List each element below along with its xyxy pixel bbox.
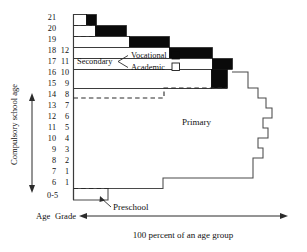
age-tick-15: 6 xyxy=(52,178,56,187)
education-age-grade-figure: 21 20 19 18 17 16 15 14 13 12 11 10 9 8 … xyxy=(0,0,307,252)
age-tick-3: 18 xyxy=(48,46,56,55)
grade-tick-3: 12 xyxy=(61,46,69,55)
academic-block-age21 xyxy=(74,15,87,26)
grade-tick-9: 6 xyxy=(65,112,69,121)
age-tick-10: 11 xyxy=(48,123,56,132)
legend-item-1-swatch-open-square-icon xyxy=(172,63,180,71)
y-axis-title: Compulsory school age xyxy=(9,84,19,165)
preschool-label: Preschool xyxy=(113,202,149,212)
legend-item-0-label: Vocational xyxy=(131,51,167,60)
x-axis-corner-label-grade: Grade xyxy=(55,211,76,221)
age-tick-1: 20 xyxy=(48,24,56,33)
legend-item-0-swatch-filled-square-icon xyxy=(172,52,180,60)
grade-tick-5: 10 xyxy=(61,68,69,77)
age-tick-16: 0-5 xyxy=(47,191,58,200)
academic-block-age19 xyxy=(74,37,130,48)
grade-tick-15: 1 xyxy=(65,178,69,187)
vocational-block-age21 xyxy=(87,15,97,26)
legend-item-1-label: Academic xyxy=(131,63,165,72)
age-tick-9: 12 xyxy=(48,112,56,121)
x-axis-corner-label-age: Age xyxy=(36,211,51,221)
grade-tick-7: 8 xyxy=(65,90,69,99)
grade-tick-13: 2 xyxy=(65,156,69,165)
grade-tick-14: 1 xyxy=(65,167,69,176)
grade-tick-10: 5 xyxy=(65,123,69,132)
age-tick-12: 9 xyxy=(52,145,56,154)
grade-tick-11: 4 xyxy=(65,134,69,143)
age-tick-7: 14 xyxy=(48,90,56,99)
age-tick-4: 17 xyxy=(48,57,56,66)
legend-group-label: Secondary xyxy=(77,57,113,66)
figure-svg: 21 20 19 18 17 16 15 14 13 12 11 10 9 8 … xyxy=(0,0,307,252)
grade-tick-12: 3 xyxy=(65,145,69,154)
grade-tick-8: 7 xyxy=(65,101,69,110)
age-tick-8: 13 xyxy=(48,101,56,110)
primary-region-label: Primary xyxy=(182,117,211,127)
age-tick-2: 19 xyxy=(48,35,56,44)
vocational-block-age19 xyxy=(130,37,170,48)
age-tick-14: 7 xyxy=(52,167,56,176)
grade-tick-6: 9 xyxy=(65,79,69,88)
age-tick-11: 10 xyxy=(48,134,56,143)
academic-block-age20 xyxy=(74,26,96,37)
vocational-block-age17 xyxy=(213,59,233,70)
age-tick-13: 8 xyxy=(52,156,56,165)
vocational-block-age20 xyxy=(96,26,127,37)
age-tick-5: 16 xyxy=(48,68,56,77)
academic-block-age16 xyxy=(74,70,212,89)
vocational-block-age16 xyxy=(212,70,228,89)
x-axis-title: 100 percent of an age group xyxy=(133,230,234,240)
age-tick-6: 15 xyxy=(48,79,56,88)
grade-tick-4: 11 xyxy=(61,57,69,66)
age-tick-0: 21 xyxy=(48,13,56,22)
